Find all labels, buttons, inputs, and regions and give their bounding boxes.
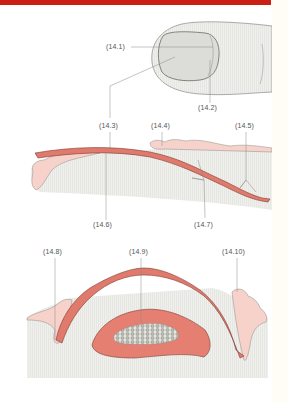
label-14-9: (14.9)	[129, 248, 148, 255]
label-14-3: (14.3)	[99, 122, 118, 129]
figure-page: (14.1) (14.2) (14.3) (14.4) (14.5) (14.6…	[0, 0, 272, 402]
longitudinal-section	[31, 132, 272, 220]
label-14-4: (14.4)	[151, 122, 170, 129]
fingertip-view	[110, 22, 272, 118]
nail-anatomy-figure	[0, 0, 272, 402]
transverse-section	[27, 258, 268, 378]
label-14-1: (14.1)	[106, 43, 125, 50]
label-14-8: (14.8)	[43, 248, 62, 255]
label-14-5: (14.5)	[235, 122, 254, 129]
label-14-7: (14.7)	[194, 221, 213, 228]
label-14-6: (14.6)	[93, 221, 112, 228]
label-14-2: (14.2)	[198, 104, 217, 111]
label-14-10: (14.10)	[222, 248, 245, 255]
